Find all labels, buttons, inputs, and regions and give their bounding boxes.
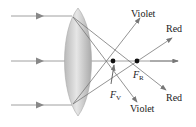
- lens-diagram: Violet Red Red Violet FR FV: [0, 0, 196, 127]
- focal-point-red: [135, 59, 140, 64]
- label-focal-violet: FV: [109, 89, 121, 102]
- label-red-bottom: Red: [166, 92, 182, 103]
- focal-point-violet: [111, 59, 116, 64]
- label-red-top: Red: [166, 23, 182, 34]
- label-violet-top: Violet: [131, 8, 156, 19]
- incident-arrowheads: [36, 13, 44, 109]
- label-violet-bottom: Violet: [130, 103, 155, 114]
